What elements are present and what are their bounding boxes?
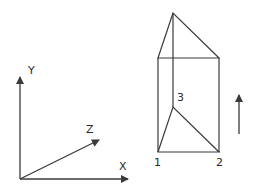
vertex-label-3: 3 (177, 91, 184, 104)
y-axis-label: Y (27, 64, 35, 77)
z-axis-label: Z (86, 123, 94, 136)
z-axis-arrow (20, 140, 99, 179)
triangular-prism (158, 13, 219, 152)
vertex-label-2: 2 (216, 156, 223, 169)
diagram-canvas: Y X Z 1 2 3 (0, 0, 255, 190)
coordinate-axes: Y X Z (20, 64, 128, 179)
x-axis-label: X (119, 160, 127, 173)
prism-top-face (158, 13, 219, 58)
vertex-label-1: 1 (154, 156, 161, 169)
prism-bottom-face (158, 107, 219, 152)
